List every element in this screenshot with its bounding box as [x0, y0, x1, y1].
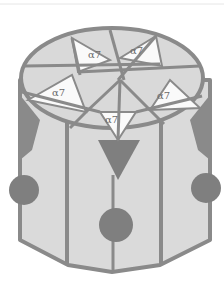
subunit-label-5: α7	[105, 114, 118, 125]
center-circle	[99, 208, 133, 242]
subunit-label-2: α7	[130, 45, 143, 56]
subunit-label-3: α7	[52, 87, 65, 98]
subunit-label-4: α7	[157, 90, 170, 101]
right-circle	[191, 173, 221, 203]
subunit-label-1: α7	[88, 49, 101, 60]
receptor-diagram: α7 α7 α7 α7 α7	[0, 0, 224, 290]
left-circle	[9, 175, 39, 205]
